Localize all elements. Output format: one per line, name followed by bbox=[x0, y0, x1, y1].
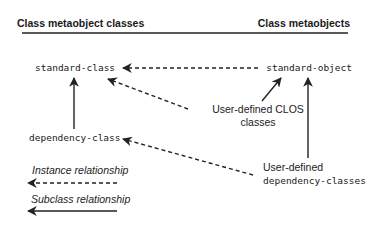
label-user-dep-line2: dependency-classes bbox=[263, 175, 366, 186]
arrow-user-clos-subclass-of-standard-object bbox=[262, 78, 281, 101]
node-dependency-class: dependency-class bbox=[29, 132, 121, 143]
arrow-user-dep-instance-of-dependency-class bbox=[123, 139, 253, 175]
node-standard-object: standard-object bbox=[266, 62, 352, 73]
label-user-clos-line2: classes bbox=[240, 116, 275, 128]
header-left: Class metaobject classes bbox=[17, 17, 144, 29]
legend-instance-label: Instance relationship bbox=[32, 164, 128, 176]
diagram-canvas: Class metaobject classes Class metaobjec… bbox=[0, 0, 382, 227]
arrow-user-clos-instance-of-standard-class bbox=[108, 79, 188, 109]
class-metaobject-diagram: Class metaobject classes Class metaobjec… bbox=[0, 0, 382, 227]
legend-subclass-label: Subclass relationship bbox=[31, 193, 130, 205]
label-user-dep-line1: User-defined bbox=[263, 161, 323, 173]
node-standard-class: standard-class bbox=[35, 62, 115, 73]
header-right: Class metaobjects bbox=[258, 17, 350, 29]
label-user-clos-line1: User-defined CLOS bbox=[212, 103, 304, 115]
